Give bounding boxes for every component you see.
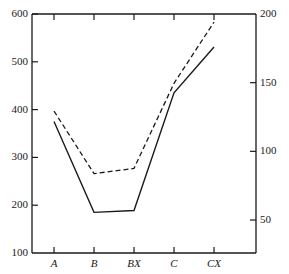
left-tick-label: 600 xyxy=(0,8,28,19)
right-axis-ticks xyxy=(250,83,256,220)
left-tick-label: 500 xyxy=(0,56,28,67)
x-tick-label-cx: CX xyxy=(194,258,234,269)
right-tick-label: 50 xyxy=(260,214,271,225)
plot-area xyxy=(0,0,289,274)
bottom-axis-ticks xyxy=(54,247,214,253)
x-tick-label-a: A xyxy=(34,258,74,269)
left-tick-label: 300 xyxy=(0,151,28,162)
line-chart: 600500400300200100 20015010050 ABBXCCX xyxy=(0,0,289,274)
series-line-solid xyxy=(54,47,214,212)
x-tick-label-bx: BX xyxy=(114,258,154,269)
right-tick-label: 200 xyxy=(260,8,277,19)
left-tick-label: 400 xyxy=(0,104,28,115)
left-tick-label: 200 xyxy=(0,199,28,210)
right-tick-label: 100 xyxy=(260,145,277,156)
x-tick-label-b: B xyxy=(74,258,114,269)
right-tick-label: 150 xyxy=(260,77,277,88)
series-line-dashed xyxy=(54,22,214,174)
left-tick-label: 100 xyxy=(0,247,28,258)
left-axis-ticks xyxy=(32,14,38,205)
x-tick-label-c: C xyxy=(154,258,194,269)
top-axis-ticks xyxy=(54,14,214,20)
